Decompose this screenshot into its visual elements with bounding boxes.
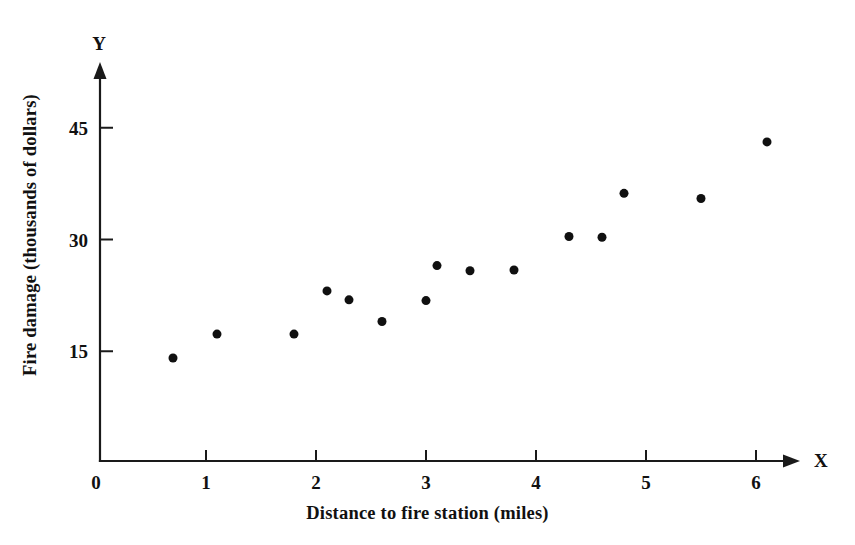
y-axis-arrow-icon xyxy=(94,62,107,79)
x-tick-label: 0 xyxy=(91,472,101,493)
y-tick-label: 45 xyxy=(69,118,88,139)
data-point xyxy=(763,137,772,146)
data-point xyxy=(323,286,332,295)
ticks-group xyxy=(100,128,756,461)
data-point xyxy=(466,266,475,275)
y-tick-label: 30 xyxy=(69,230,88,251)
x-tick-label: 3 xyxy=(421,472,431,493)
data-point xyxy=(697,194,706,203)
data-points-group xyxy=(169,137,772,362)
x-axis-symbol-label: X xyxy=(814,450,828,471)
data-point xyxy=(290,330,299,339)
data-point xyxy=(422,296,431,305)
y-axis-symbol-label: Y xyxy=(92,33,106,54)
data-point xyxy=(433,261,442,270)
data-point xyxy=(169,353,178,362)
y-axis-title-wrapper: Fire damage (thousands of dollars) xyxy=(0,0,60,470)
y-axis-title: Fire damage (thousands of dollars) xyxy=(20,94,41,376)
data-point xyxy=(620,189,629,198)
data-point xyxy=(345,295,354,304)
x-tick-label: 6 xyxy=(751,472,761,493)
x-axis-title: Distance to fire station (miles) xyxy=(0,503,855,524)
x-tick-label: 5 xyxy=(641,472,651,493)
plot-canvas: 0123456153045 YX xyxy=(0,0,855,545)
axes-group xyxy=(94,62,801,468)
data-point xyxy=(510,266,519,275)
data-point xyxy=(565,232,574,241)
x-tick-label: 2 xyxy=(311,472,321,493)
data-point xyxy=(213,330,222,339)
data-point xyxy=(598,233,607,242)
x-tick-label: 4 xyxy=(531,472,541,493)
tick-labels-group: 0123456153045 xyxy=(69,118,761,493)
y-tick-label: 15 xyxy=(69,341,88,362)
data-point xyxy=(378,317,387,326)
axis-endpoint-labels: YX xyxy=(92,33,828,471)
scatter-plot-figure: 0123456153045 YX Fire damage (thousands … xyxy=(0,0,855,545)
x-tick-label: 1 xyxy=(201,472,211,493)
x-axis-arrow-icon xyxy=(783,455,800,468)
